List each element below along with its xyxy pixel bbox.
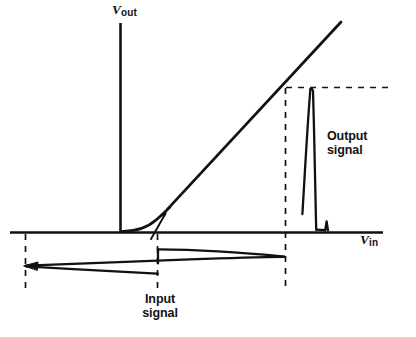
output-signal-baseline-segment bbox=[316, 230, 325, 231]
output-signal-falling-edge bbox=[313, 91, 316, 230]
output-signal-rising-edge bbox=[302, 89, 310, 214]
axes-group bbox=[10, 23, 383, 233]
axis-label-vin-name: V bbox=[360, 232, 369, 247]
output-signal-label: Outputsignal bbox=[327, 130, 367, 157]
axis-label-vout-name: V bbox=[112, 2, 121, 17]
input-signal-upper-edge bbox=[158, 249, 284, 256]
axis-label-vout-subscript: out bbox=[121, 7, 137, 18]
input-signal-middle-edge bbox=[26, 257, 284, 266]
input-signal-label: Inputsignal bbox=[112, 293, 208, 320]
output-signal-label-line2: signal bbox=[327, 144, 367, 158]
knee-pointer-arrow bbox=[151, 212, 167, 240]
output-signal-trailing-notch bbox=[325, 221, 328, 230]
output-signal-waveform bbox=[302, 88, 328, 230]
axis-label-vout: Vout bbox=[112, 3, 137, 19]
transfer-characteristic-figure: Vout Vin Outputsignal Inputsignal bbox=[0, 0, 416, 337]
axis-label-vin: Vin bbox=[360, 233, 378, 249]
axis-label-vin-subscript: in bbox=[369, 237, 378, 248]
diagram-canvas bbox=[0, 0, 416, 337]
input-signal-label-line2: signal bbox=[112, 307, 208, 321]
output-signal-label-line1: Output bbox=[327, 130, 367, 144]
input-signal-lower-edge bbox=[26, 266, 157, 273]
input-signal-waveform bbox=[24, 249, 284, 273]
input-signal-label-line1: Input bbox=[112, 293, 208, 307]
